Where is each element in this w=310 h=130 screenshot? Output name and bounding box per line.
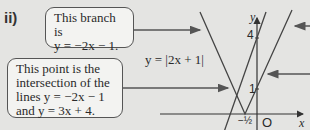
origin-label: O (262, 115, 272, 130)
y-axis-label: y (250, 10, 255, 25)
graph-canvas (0, 0, 310, 130)
abs-value-graph (200, 10, 292, 114)
y-tick-1: 1 (249, 82, 256, 96)
y-tick-4: 4 (247, 28, 254, 42)
line-3x-plus-4 (224, 12, 266, 130)
x-axis-label: x (299, 116, 304, 130)
x-tick-neg-half: −½ (238, 115, 252, 126)
